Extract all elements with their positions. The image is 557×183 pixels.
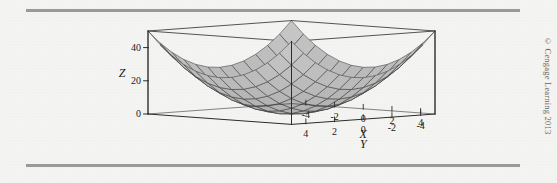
surface-plot-svg: 02040Z420-2-4Y-4-2024X: [0, 0, 520, 183]
svg-text:40: 40: [131, 42, 141, 53]
svg-text:-4: -4: [302, 109, 310, 120]
svg-text:-2: -2: [330, 111, 338, 122]
svg-text:2: 2: [389, 115, 394, 126]
svg-text:20: 20: [131, 75, 141, 86]
svg-text:4: 4: [303, 128, 308, 139]
svg-text:0: 0: [136, 108, 141, 119]
surface-plot: 02040Z420-2-4Y-4-2024X: [0, 0, 520, 183]
svg-text:2: 2: [332, 126, 337, 137]
svg-text:Z: Z: [119, 66, 126, 80]
copyright-credit: © Cengage Learning 2013: [541, 36, 555, 156]
figure-container: 02040Z420-2-4Y-4-2024X © Cengage Learnin…: [0, 0, 557, 183]
svg-text:0: 0: [361, 113, 366, 124]
svg-text:4: 4: [418, 117, 423, 128]
svg-text:X: X: [359, 127, 368, 141]
